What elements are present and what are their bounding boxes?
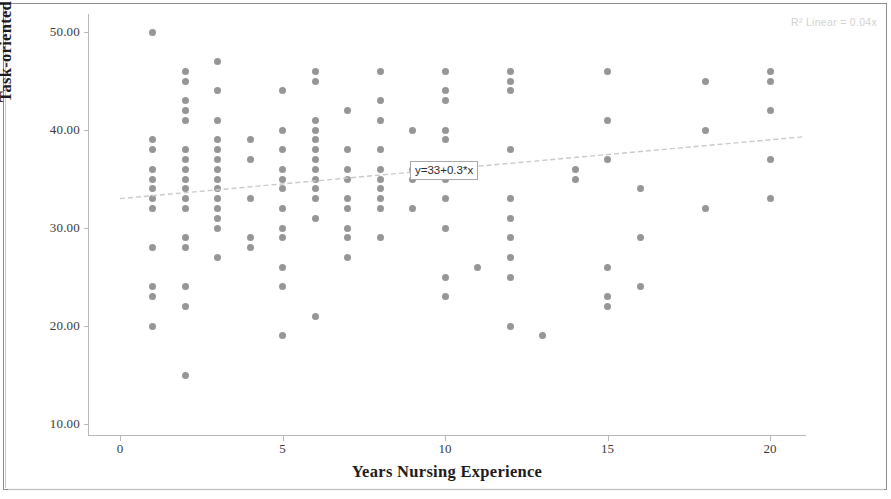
r-squared-label: R² Linear = 0.04x bbox=[791, 16, 877, 28]
regression-equation-label: y=33+0.3*x bbox=[410, 161, 478, 180]
scanned-page: 10.0020.0030.0040.0050.00 05101520 Task-… bbox=[0, 0, 891, 499]
regression-line bbox=[0, 0, 891, 499]
